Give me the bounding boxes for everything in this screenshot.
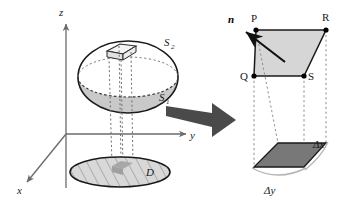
tangent-parallelogram-face — [254, 30, 326, 76]
x-axis-label: x — [16, 184, 22, 196]
vertex-label-s: S — [308, 70, 314, 82]
region-d-label: D — [145, 166, 154, 178]
normal-vector-label: n — [228, 13, 234, 25]
zoom-arrow — [166, 103, 236, 137]
region-d — [70, 157, 170, 187]
vertex-label-q: Q — [240, 70, 248, 82]
vertex-dot-q — [251, 73, 256, 78]
surface-upper-label: S — [164, 36, 170, 48]
x-axis — [27, 134, 66, 182]
surface-lower-label: S — [159, 91, 165, 103]
surface-lower-sub: 1 — [166, 98, 170, 106]
vertex-dot-p — [253, 27, 258, 32]
tangent-parallelogram — [254, 30, 326, 76]
delta-y-label: Δy — [263, 184, 275, 196]
figure-root: z y x S 2 S 1 — [0, 0, 344, 203]
surface-upper-sub: 2 — [171, 43, 175, 51]
delta-x-label: Δx — [312, 138, 324, 150]
diagram-canvas: z y x S 2 S 1 — [0, 0, 344, 203]
equator-back-dashed — [78, 57, 178, 77]
y-axis-label: y — [189, 129, 195, 141]
vertex-label-r: R — [322, 11, 330, 23]
surface-patch-on-ellipsoid — [107, 44, 136, 60]
vertex-dot-r — [323, 27, 328, 32]
z-axis-label: z — [58, 6, 64, 18]
brace-delta-y — [252, 168, 306, 175]
vertex-dot-s — [301, 73, 306, 78]
vertex-label-p: P — [251, 12, 257, 24]
